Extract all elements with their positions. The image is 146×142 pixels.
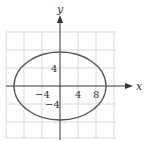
y-tick-4: 4	[51, 63, 57, 74]
y-axis-arrow-icon	[57, 15, 63, 23]
x-axis-arrow-icon	[125, 83, 133, 89]
x-axis-label: x	[136, 80, 143, 93]
y-axis-label: y	[56, 3, 64, 16]
y-tick-neg4: −4	[45, 99, 60, 110]
x-tick-4: 4	[75, 89, 81, 100]
grid	[6, 32, 116, 138]
x-tick-8: 8	[93, 89, 99, 100]
ellipse-chart: x y −4 4 8 4 −4	[0, 0, 146, 142]
